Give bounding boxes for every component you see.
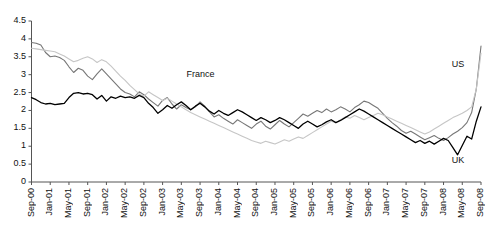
x-axis-tick-label: Sep-06 [364, 188, 373, 217]
x-axis-tick-label: Jan-03 [158, 188, 167, 216]
y-axis-tick-label: 2.5 [0, 88, 26, 97]
x-axis-tick-label: May-05 [289, 188, 298, 218]
x-axis-tick-label: Jan-06 [326, 188, 335, 216]
x-axis-tick-label: Sep-02 [139, 188, 148, 217]
x-axis-tick-label: Sep-07 [420, 188, 429, 217]
x-axis-tick-label: Jan-07 [382, 188, 391, 216]
x-axis-tick-label: May-03 [176, 188, 185, 218]
plot-area [0, 0, 487, 235]
y-axis-tick-label: 1.5 [0, 123, 26, 132]
x-axis-tick-label: Jan-04 [214, 188, 223, 216]
y-axis-tick-label: 4 [0, 34, 26, 43]
series-annotation-uk: UK [452, 155, 465, 165]
series-line-france [32, 42, 482, 140]
y-axis-tick-label: 1 [0, 141, 26, 150]
x-axis-tick-label: Jan-08 [439, 188, 448, 216]
x-axis-tick-label: Sep-04 [251, 188, 260, 217]
y-axis-tick-label: 4.5 [0, 16, 26, 25]
series-line-us [32, 48, 482, 144]
x-axis-tick-label: Sep-05 [307, 188, 316, 217]
x-axis-tick-label: May-02 [120, 188, 129, 218]
x-axis-tick-label: Sep-08 [476, 188, 485, 217]
line-chart: 00.511.522.533.544.5Sep-00Jan-01May-01Se… [0, 0, 487, 235]
y-axis-tick-label: 3.5 [0, 52, 26, 61]
x-axis-tick-label: May-01 [64, 188, 73, 218]
y-axis-tick-label: 0 [0, 177, 26, 186]
x-axis-tick-label: May-07 [401, 188, 410, 218]
x-axis-tick-label: Sep-01 [83, 188, 92, 217]
x-axis-tick-label: Sep-00 [27, 188, 36, 217]
y-axis-tick-label: 0.5 [0, 159, 26, 168]
series-annotation-france: France [187, 69, 215, 79]
x-axis-tick-label: Jan-02 [101, 188, 110, 216]
y-axis-tick-label: 2 [0, 105, 26, 114]
x-axis-tick-label: Sep-03 [195, 188, 204, 217]
y-axis-tick-label: 3 [0, 70, 26, 79]
x-axis-tick-label: May-08 [457, 188, 466, 218]
x-axis-tick-label: May-06 [345, 188, 354, 218]
x-axis-tick-label: Jan-01 [45, 188, 54, 216]
series-annotation-us: US [452, 59, 465, 69]
x-axis-tick-label: Jan-05 [270, 188, 279, 216]
x-axis-tick-label: May-04 [233, 188, 242, 218]
